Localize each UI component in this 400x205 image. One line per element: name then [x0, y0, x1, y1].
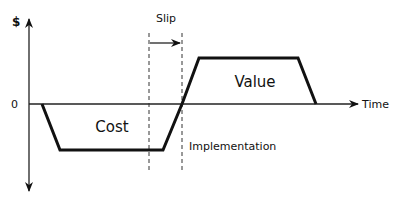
cost-label: Cost: [95, 118, 128, 136]
implementation-label: Implementation: [189, 140, 276, 153]
slip-label: Slip: [156, 12, 176, 25]
zero-label: 0: [11, 98, 18, 111]
y-axis-label: $: [12, 15, 20, 29]
value-label: Value: [234, 73, 275, 91]
x-axis-label: Time: [361, 98, 389, 111]
cost-value-diagram: $ 0 Time Slip Cost Value Implementation: [0, 0, 400, 205]
